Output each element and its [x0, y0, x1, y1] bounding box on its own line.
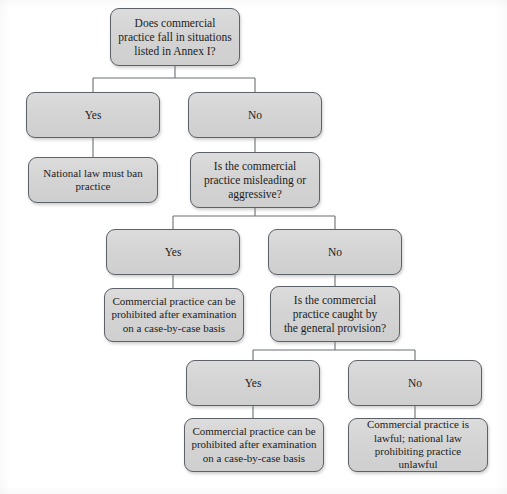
node-label-q2-yes: Yes [112, 245, 234, 259]
node-label-q2-no: No [274, 245, 396, 259]
node-label-q2: Is the commercial practice misleading or… [196, 159, 314, 201]
node-r1: National law must ban practice [28, 157, 158, 203]
node-label-q3-yes: Yes [192, 376, 314, 390]
node-r4: Commercial practice is lawful; national … [348, 418, 488, 472]
node-r3: Commercial practice can be prohibited af… [184, 418, 324, 472]
node-label-q3-no: No [354, 376, 476, 390]
node-label-r1: National law must ban practice [34, 167, 152, 194]
node-q2: Is the commercial practice misleading or… [190, 152, 320, 208]
node-label-r4: Commercial practice is lawful; national … [354, 418, 482, 472]
connector-c-q2-split [173, 208, 335, 229]
node-label-r3: Commercial practice can be prohibited af… [190, 425, 318, 465]
node-q1: Does commercial practice fall in situati… [110, 8, 240, 66]
node-q1-no: No [188, 92, 322, 138]
node-label-q1-yes: Yes [32, 108, 154, 122]
node-q2-yes: Yes [106, 229, 240, 275]
flowchart-canvas: Does commercial practice fall in situati… [0, 0, 507, 494]
node-label-r2: Commercial practice can be prohibited af… [110, 295, 238, 335]
node-q3-no: No [348, 360, 482, 406]
node-q2-no: No [268, 229, 402, 275]
node-r2: Commercial practice can be prohibited af… [104, 288, 244, 342]
node-q3: Is the commercial practice caught by the… [270, 286, 400, 342]
node-label-q3: Is the commercial practice caught by the… [276, 293, 394, 335]
connector-c-q3-split [253, 342, 415, 360]
node-q1-yes: Yes [26, 92, 160, 138]
node-label-q1-no: No [194, 108, 316, 122]
node-label-q1: Does commercial practice fall in situati… [116, 16, 234, 58]
connector-c-q1-split [93, 66, 255, 92]
node-q3-yes: Yes [186, 360, 320, 406]
